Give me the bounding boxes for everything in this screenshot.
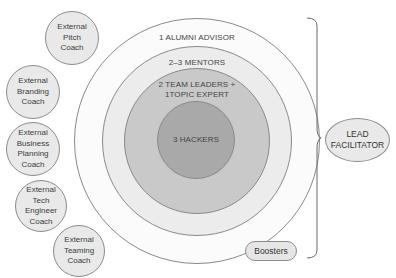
lead-facilitator: LEAD FACILITATOR (325, 118, 390, 162)
